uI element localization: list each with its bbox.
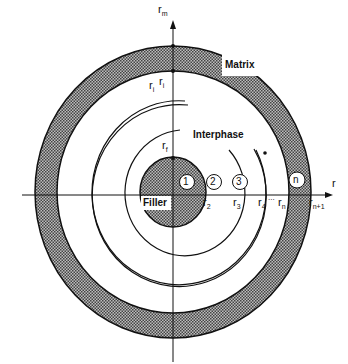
layer-2-label: 2 (210, 177, 216, 187)
layer-n-label: n (293, 175, 299, 185)
ri-point (171, 69, 175, 73)
ri-label-1: ri (149, 80, 154, 93)
filler-label: Filler (143, 198, 167, 208)
rm-label: rm (158, 4, 168, 17)
layer-3-label: 3 (236, 177, 242, 187)
ellipsis-label: ... (268, 194, 275, 202)
r3-label: r3 (233, 197, 241, 210)
x-axis-arrow-icon (325, 192, 333, 198)
rm-point (171, 44, 175, 48)
y-axis-arrow-icon (170, 20, 176, 29)
r4-label: r4 (258, 197, 266, 210)
matrix-label: Matrix (225, 60, 254, 70)
dot-marker (263, 151, 267, 155)
rf-label: rf (162, 140, 168, 153)
r-axis-label: r (332, 178, 336, 189)
r2-label: r2 (203, 197, 211, 210)
rn-label: rn (278, 197, 286, 210)
ri-label-2: ri (159, 76, 164, 89)
rn1-label: rn+1 (309, 197, 325, 210)
layer-1-label: 1 (183, 177, 189, 187)
interphase-label: Interphase (193, 130, 244, 140)
rf-point (171, 156, 175, 160)
